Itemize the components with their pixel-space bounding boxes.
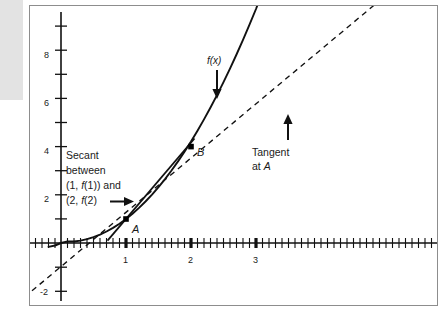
x-tick-label-1: 1 <box>123 256 128 265</box>
function-curve <box>49 1 260 247</box>
secant-label-line4: (2, f(2) <box>66 195 97 206</box>
secant-label-line1: Secant <box>66 150 99 161</box>
secant-line4-open: (2, <box>66 194 81 206</box>
point-b-marker <box>188 144 194 150</box>
point-a-marker <box>123 216 129 222</box>
y-tick-label-4: 4 <box>44 147 49 156</box>
secant-label-line3: (1, f(1)) and <box>66 180 121 191</box>
tangent-label-line1: Tangent <box>252 147 289 158</box>
y-tick-label-neg2: -2 <box>40 288 48 297</box>
tangent-label-at: at <box>252 160 264 172</box>
x-tick-label-3: 3 <box>253 256 258 265</box>
secant-arrow-icon <box>110 197 134 206</box>
fx-arrow-icon <box>212 70 221 99</box>
point-a-label: A <box>132 224 139 235</box>
tangent-label-line2: at A <box>252 161 271 172</box>
tangent-label-point: A <box>264 160 271 172</box>
y-tick-label-6: 6 <box>44 99 49 108</box>
x-tick-label-2: 2 <box>188 256 193 265</box>
tangent-line <box>32 0 436 291</box>
point-b-label: B <box>197 147 204 158</box>
tangent-arrow-icon <box>283 114 292 140</box>
secant-line3-open: (1, <box>66 179 81 191</box>
secant-line4-rest: (2) <box>84 194 97 206</box>
fx-label: f(x) <box>207 56 221 66</box>
y-tick-label-8: 8 <box>44 51 49 60</box>
figure-root: 8 6 4 2 -2 1 2 3 A B f(x) Tangent at A S… <box>0 0 445 317</box>
y-tick-label-2: 2 <box>44 195 49 204</box>
secant-line3-rest: (1)) and <box>84 179 121 191</box>
secant-label-line2: between <box>66 165 106 176</box>
